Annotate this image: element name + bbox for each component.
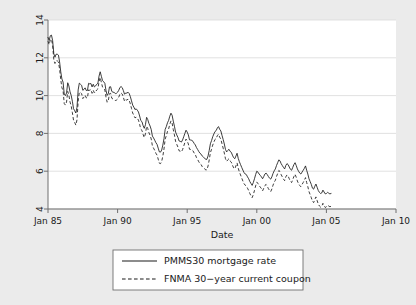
y-tick-label: 10 <box>35 90 45 102</box>
legend-label-pmms30: PMMS30 mortgage rate <box>164 255 276 266</box>
x-tick-label: Jan 00 <box>242 216 271 226</box>
x-tick-label: Jan 10 <box>381 216 410 226</box>
y-tick-label: 4 <box>35 206 45 212</box>
x-tick-label: Jan 90 <box>103 216 132 226</box>
x-tick-label: Jan 85 <box>33 216 62 226</box>
y-tick-label: 8 <box>35 130 45 136</box>
x-axis-title: Date <box>211 229 234 240</box>
legend-label-fnma: FNMA 30−year current coupon <box>164 273 311 284</box>
x-tick-label: Jan 95 <box>172 216 201 226</box>
y-tick-label: 6 <box>35 168 45 174</box>
y-tick-label: 14 <box>35 14 45 26</box>
y-tick-label: 12 <box>35 52 45 63</box>
chart-legend: PMMS30 mortgage rate FNMA 30−year curren… <box>113 250 311 290</box>
line-chart: 468101214 Jan 85Jan 90Jan 95Jan 00Jan 05… <box>0 0 416 305</box>
chart-figure: 468101214 Jan 85Jan 90Jan 95Jan 00Jan 05… <box>0 0 416 305</box>
x-tick-label: Jan 05 <box>311 216 340 226</box>
plot-area-background <box>48 20 396 209</box>
